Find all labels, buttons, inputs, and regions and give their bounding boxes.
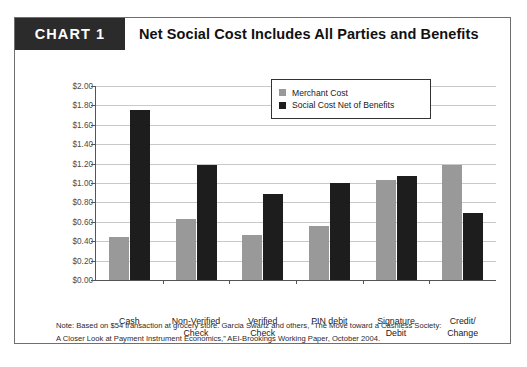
y-axis-labels: $2.00$1.80$1.60$1.40$1.20$1.00$0.80$0.60… [41,50,93,303]
bar [109,237,129,280]
x-axis-tick-mark [296,280,297,284]
chart-number-badge: CHART 1 [15,18,125,50]
y-axis-tick-label: $0.20 [49,256,93,265]
bar [463,213,483,280]
page-title: Net Social Cost Includes All Parties and… [139,18,479,50]
y-axis-tick-label: $1.40 [49,140,93,149]
chart-header: CHART 1 Net Social Cost Includes All Par… [15,18,510,50]
legend-item-label: Social Cost Net of Benefits [292,100,394,110]
y-axis-tick-label: $0.80 [49,198,93,207]
bar [397,176,417,280]
bar [176,219,196,280]
x-axis-tick-mark [363,280,364,284]
y-axis-tick-label: $0.00 [49,276,93,285]
square-black-icon [279,102,286,109]
bar [242,235,262,280]
legend-item: Social Cost Net of Benefits [279,100,422,110]
chart-legend: Merchant Cost Social Cost Net of Benefit… [271,79,431,119]
bar [376,180,396,280]
x-axis-tick-mark [429,280,430,284]
bar [130,110,150,280]
y-axis-tick-label: $1.20 [49,159,93,168]
y-axis-tick-label: $1.00 [49,179,93,188]
y-axis-tick-label: $0.40 [49,237,93,246]
y-axis-tick-label: $1.80 [49,101,93,110]
bar [197,165,217,280]
x-axis-tick-mark [163,280,164,284]
chart-footnote: Note: Based on $54 transaction at grocer… [56,319,488,345]
y-axis-tick-label: $2.00 [49,82,93,91]
bar [263,194,283,280]
y-axis-tick-mark [91,280,96,281]
square-gray-icon [279,89,286,96]
chart-figure: CHART 1 Net Social Cost Includes All Par… [14,17,511,344]
legend-item: Merchant Cost [279,88,422,98]
footnote-line: A Closer Look at Payment Instrument Econ… [56,332,488,345]
bar [309,226,329,280]
legend-item-label: Merchant Cost [292,88,348,98]
bar [330,183,350,280]
bar [442,165,462,280]
footnote-line: Note: Based on $54 transaction at grocer… [56,319,488,332]
plot-region: $2.00$1.80$1.60$1.40$1.20$1.00$0.80$0.60… [15,50,510,303]
x-axis-tick-mark [229,280,230,284]
y-axis-tick-label: $0.60 [49,217,93,226]
y-axis-tick-label: $1.60 [49,120,93,129]
